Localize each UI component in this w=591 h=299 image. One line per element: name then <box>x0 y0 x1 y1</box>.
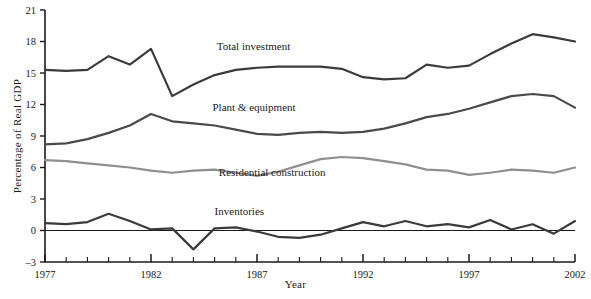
series-label-total-investment: Total investment <box>217 40 290 52</box>
x-axis-title: Year <box>0 278 591 290</box>
y-tick-label: 6 <box>31 162 36 173</box>
y-tick-label: 12 <box>26 99 37 110</box>
y-tick-label-group: –3036912151821 <box>25 5 37 268</box>
y-axis-title: Percentage of Real GDP <box>11 51 23 221</box>
series-label-plant-equipment: Plant & equipment <box>212 101 295 113</box>
y-tick-label: –3 <box>25 257 37 268</box>
x-minor-ticks <box>45 254 575 262</box>
y-tick-label: 18 <box>26 36 37 47</box>
series-line-total-investment <box>45 34 575 96</box>
series-line-inventories <box>45 214 575 250</box>
series-label-residential-construction: Residential construction <box>219 166 326 178</box>
y-tick-label: 9 <box>31 131 36 142</box>
series-line-plant-equipment <box>45 94 575 144</box>
y-tick-label: 0 <box>31 225 36 236</box>
series-label-inventories: Inventories <box>215 205 264 217</box>
chart-svg: Total investmentPlant & equipmentResiden… <box>0 0 591 299</box>
y-tick-label: 3 <box>31 194 36 205</box>
y-tick-label: 15 <box>26 68 37 79</box>
y-tick-label: 21 <box>26 5 37 16</box>
data-series-group <box>45 34 575 249</box>
investment-chart: Total investmentPlant & equipmentResiden… <box>0 0 591 299</box>
